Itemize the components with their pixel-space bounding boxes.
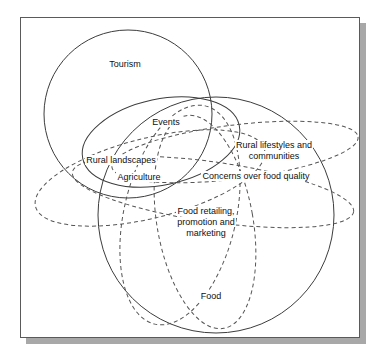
label-agriculture: Agriculture: [108, 172, 170, 183]
label-food-retailing-promotion-marketing: Food retailing, promotion and marketing: [164, 206, 248, 239]
label-rural-landscapes: Rural landscapes: [78, 155, 164, 166]
label-events: Events: [140, 117, 192, 128]
label-food: Food: [195, 291, 227, 302]
figure-canvas: Tourism Events Rural landscapes Rural li…: [0, 0, 391, 361]
label-tourism: Tourism: [95, 59, 155, 70]
label-concerns-over-food-quality: Concerns over food quality: [190, 171, 322, 182]
label-rural-lifestyles-and-communities: Rural lifestyles and communities: [222, 140, 326, 162]
